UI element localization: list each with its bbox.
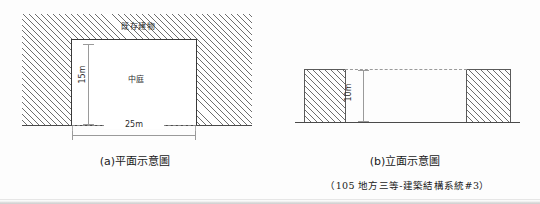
elevation-height-dimension-label: 10m [344,73,353,113]
elevation-right-block-outline [466,69,511,123]
existing-building-label: 既存建物 [106,20,170,31]
plan-vertical-dimension-line [88,44,89,124]
plan-horizontal-dimension-tick-right [195,131,196,140]
plan-horizontal-dimension-label: 25m [104,120,164,129]
courtyard-left-wall-line [71,39,72,126]
figure-a-plan-view: 既存建物 中庭 15m 25m (a)平面示意圖 [0,0,270,204]
elevation-height-dimension-tick-bottom [358,121,369,122]
source-citation: （105 地方三等-建築結構系統#3） [290,178,525,192]
plan-horizontal-dimension-tick-left [72,131,73,140]
courtyard-right-wall-line [196,39,197,126]
elevation-height-dimension-tick-top [358,70,369,71]
plan-vertical-dimension-tick-top [83,44,94,45]
elevation-height-dimension-line [363,70,364,122]
elevation-left-block-outline [304,69,346,123]
elevation-ground-line [295,122,520,123]
figure-b-elevation-view: 10m (b)立面示意圖 （105 地方三等-建築結構系統#3） [270,0,540,204]
plan-vertical-dimension-tick-bottom [83,124,94,125]
courtyard-label: 中庭 [110,73,162,84]
figure-a-caption: (a)平面示意圖 [55,152,215,168]
plan-vertical-dimension-label: 15m [78,55,87,95]
plan-horizontal-dimension-line [72,135,196,136]
page-bottom-edge [0,200,540,204]
courtyard-top-wall-line [71,39,197,40]
scanned-figure-page: 既存建物 中庭 15m 25m (a)平面示意圖 10m (b)立面示意圖 （1… [0,0,540,204]
figure-b-caption: (b)立面示意圖 [295,152,515,168]
